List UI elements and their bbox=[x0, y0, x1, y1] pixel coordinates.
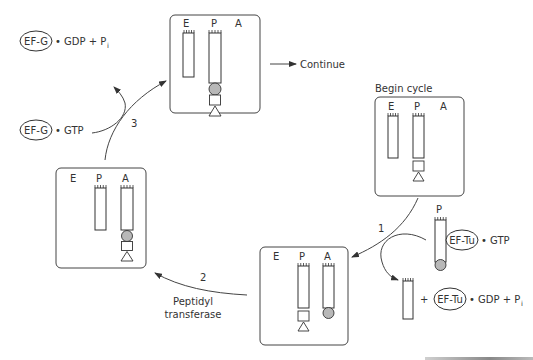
amino-acid-triangle bbox=[298, 322, 309, 331]
enzyme-label-line1: Peptidyl bbox=[173, 296, 213, 307]
site-label-p: P bbox=[96, 173, 102, 184]
elongation-cycle-diagram: E P A Continue Begin cycle E P A bbox=[0, 0, 533, 360]
step-1-main-arrow bbox=[352, 198, 418, 257]
pi-subscript: i bbox=[107, 42, 109, 50]
site-label-a: A bbox=[122, 173, 129, 184]
aminoacyl-trna-a-site bbox=[323, 263, 334, 319]
pi-subscript: i bbox=[521, 300, 523, 308]
incoming-aminoacyl-trna bbox=[435, 217, 446, 271]
peptidyl-trna-p-site bbox=[413, 113, 424, 181]
site-label-p: P bbox=[299, 251, 305, 262]
ribosome-after-aminoacyl-binding: E P A bbox=[260, 247, 348, 345]
amino-acid-triangle bbox=[209, 106, 221, 116]
site-label-a: A bbox=[324, 251, 331, 262]
enzyme-label-line2: transferase bbox=[165, 309, 222, 320]
site-label-e: E bbox=[183, 18, 189, 29]
peptidyl-trna-p-site bbox=[209, 30, 221, 116]
gdp-pi-label: • GDP + P bbox=[55, 36, 106, 47]
site-label-p: P bbox=[414, 101, 420, 112]
site-label-p: P bbox=[211, 18, 217, 29]
ef-g-label: EF-G bbox=[24, 36, 48, 47]
gtp-label: • GTP bbox=[55, 125, 84, 136]
step-1-number: 1 bbox=[378, 223, 384, 234]
continue-label: Continue bbox=[300, 59, 345, 70]
gdp-pi-label: • GDP + P bbox=[469, 294, 520, 305]
site-label-e: E bbox=[70, 173, 76, 184]
plus-sign: + bbox=[420, 294, 428, 305]
amino-acid-triangle bbox=[413, 172, 424, 181]
trna-e-site bbox=[183, 30, 194, 77]
amino-acid-circle bbox=[435, 260, 446, 271]
amino-acid-circle bbox=[122, 231, 133, 242]
step-2-peptidyl-transfer: 2 Peptidyl transferase bbox=[155, 272, 247, 320]
ef-tu-label: EF-Tu bbox=[449, 235, 475, 246]
amino-acid-square bbox=[298, 311, 309, 321]
step-3-translocation: 3 EF-G • GDP + P i EF-G • GTP bbox=[20, 31, 166, 160]
peptidyl-trna-a-site bbox=[121, 185, 133, 261]
site-label-a: A bbox=[440, 101, 447, 112]
ef-g-label: EF-G bbox=[24, 125, 48, 136]
begin-cycle-label: Begin cycle bbox=[375, 83, 433, 94]
amino-acid-square bbox=[122, 242, 133, 251]
site-label-e: E bbox=[273, 251, 279, 262]
deacylated-trna-p-site bbox=[95, 185, 106, 230]
ribosome-after-translocation: E P A bbox=[170, 15, 260, 116]
ribosome-begin-cycle: E P A bbox=[375, 97, 464, 196]
step-1-aminoacyl-delivery: 1 P EF-Tu • GTP + EF-Tu • GDP + P i bbox=[352, 198, 523, 319]
released-trna bbox=[403, 278, 413, 319]
amino-acid-triangle bbox=[121, 252, 133, 262]
step-3-release-arrow bbox=[92, 87, 125, 133]
ribosome-after-peptidyl-transfer: E P A bbox=[56, 168, 146, 268]
step-2-number: 2 bbox=[200, 272, 206, 283]
step-3-number: 3 bbox=[131, 118, 137, 129]
amino-acid-square bbox=[413, 161, 424, 171]
amino-acid-circle bbox=[209, 83, 221, 95]
step-1-release-arrow bbox=[381, 234, 426, 280]
site-label-a: A bbox=[235, 18, 242, 29]
trna-e-site bbox=[388, 113, 398, 158]
amino-acid-circle bbox=[323, 308, 334, 319]
ef-tu-label: EF-Tu bbox=[437, 294, 463, 305]
peptidyl-trna-p-site bbox=[298, 263, 309, 331]
site-label-e: E bbox=[388, 101, 394, 112]
amino-acid-square bbox=[210, 95, 221, 105]
gtp-label: • GTP bbox=[481, 235, 510, 246]
incoming-trna-site-label: P bbox=[436, 204, 442, 215]
